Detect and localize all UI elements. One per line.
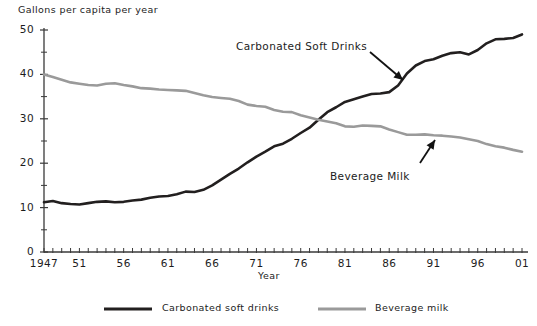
chart-figure: Gallons per capita per year Year Carbona…	[0, 0, 537, 326]
x-tick-label: 91	[413, 257, 453, 269]
x-tick-label: 96	[458, 257, 498, 269]
y-tick-label: 40	[12, 67, 34, 79]
x-tick-label: 81	[325, 257, 365, 269]
x-tick-label: 66	[192, 257, 232, 269]
axes	[40, 28, 528, 253]
x-tick-label: 1947	[24, 257, 64, 269]
data-series	[44, 34, 522, 204]
x-tick-label: 71	[236, 257, 276, 269]
y-tick-label: 0	[12, 245, 34, 257]
x-tick-label: 76	[281, 257, 321, 269]
annotation-arrows	[370, 52, 435, 163]
x-tick-label: 56	[104, 257, 144, 269]
x-tick-label: 01	[502, 257, 537, 269]
y-tick-label: 50	[12, 23, 34, 35]
x-tick-label: 51	[59, 257, 99, 269]
x-tick-label: 61	[148, 257, 188, 269]
y-tick-label: 10	[12, 201, 34, 213]
chart-plot-area	[0, 0, 537, 326]
y-tick-label: 30	[12, 112, 34, 124]
x-tick-label: 86	[369, 257, 409, 269]
y-tick-label: 20	[12, 156, 34, 168]
